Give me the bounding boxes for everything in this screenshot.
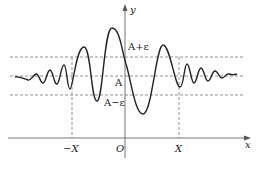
horizontal-dashed-lines (10, 57, 245, 95)
y-axis-arrow-icon (123, 4, 128, 11)
vertical-dashed-lines (72, 57, 179, 138)
y-axis-label: y (129, 4, 136, 15)
oscillating-curve (15, 28, 237, 114)
origin-label: O (116, 143, 124, 154)
upper-bound-label: A+ε (127, 41, 149, 52)
epsilon-limit-diagram: y A+ε A A−ε −X O X x (0, 0, 257, 169)
pos-X-label: X (174, 143, 183, 154)
limit-label: A (114, 77, 123, 88)
neg-X-label: −X (63, 143, 79, 154)
lower-bound-label: A−ε (103, 97, 125, 108)
x-axis-label: x (245, 139, 251, 150)
